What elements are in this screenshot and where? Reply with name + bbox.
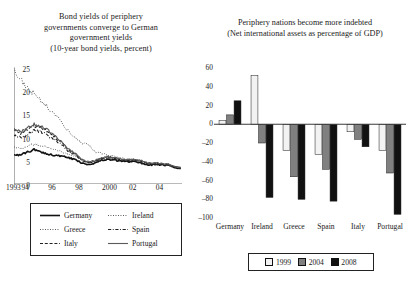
right-y-axis-tick-labels: 6040200–20–40–60–80–100 [193,68,213,218]
right-y-tick-60: 60 [206,64,213,72]
legend-label-greece: Greece [64,225,86,234]
right-legend-label-2008: 2008 [341,258,356,267]
right-x-label-italy: Italy [351,222,365,231]
legend-swatch-italy [39,239,61,248]
bar-greece-2008 [298,124,305,199]
legend-item-germany: Germany [39,211,107,220]
left-title-line-3: government yields [8,33,194,44]
legend-swatch-portugal [107,239,129,248]
bar-italy-2008 [362,124,369,147]
bar-italy-1999 [347,124,354,132]
bar-ireland-1999 [251,76,258,125]
right-legend-label-1999: 1999 [276,258,291,267]
legend-item-spain: Spain [107,225,175,234]
right-y-tick--80: –80 [202,195,213,203]
legend-label-ireland: Ireland [132,211,154,220]
bar-spain-2008 [330,124,337,201]
right-y-tick--60: –60 [202,177,213,185]
right-x-label-germany: Germany [216,222,244,231]
legend-swatch-spain [107,225,129,234]
right-chart-plot-area [214,68,406,218]
left-chart-legend: GermanyIrelandGreeceSpainItalyPortugal [30,203,182,256]
right-y-tick--40: –40 [202,158,213,166]
right-x-label-portugal: Portugal [377,222,403,231]
legend-item-portugal: Portugal [107,239,175,248]
right-chart-svg [214,68,406,218]
bar-greece-2004 [291,124,298,177]
legend-item-greece: Greece [39,225,107,234]
right-legend-swatch-2008 [331,258,339,266]
right-legend-swatch-1999 [265,258,273,266]
figure-container: Bond yields of periphery governments con… [0,0,414,288]
bar-ireland-2008 [266,124,273,197]
right-title-line-1: Periphery nations become more indebted [196,18,414,29]
right-y-tick-0: 0 [209,120,213,128]
right-y-tick-20: 20 [206,102,213,110]
bar-germany-2004 [227,115,234,124]
right-legend-swatch-2004 [298,258,306,266]
left-chart-panel: Bond yields of periphery governments con… [0,0,200,288]
right-chart-legend: 199920042008 [248,253,374,271]
legend-swatch-germany [39,211,61,220]
right-title-subtitle: (Net international assets as percentage … [196,29,414,40]
bar-spain-1999 [315,124,322,154]
bar-germany-2008 [234,101,241,124]
left-title-line-1: Bond yields of periphery [8,12,194,23]
legend-swatch-ireland [107,211,129,220]
left-x-tick-2000: 2000 [102,183,117,192]
bar-portugal-2004 [387,124,394,173]
left-chart-plot-area [14,66,186,184]
right-chart-panel: Periphery nations become more indebted (… [196,0,414,288]
right-x-label-greece: Greece [283,222,305,231]
right-legend-item-2004: 2004 [298,258,324,267]
legend-swatch-greece [39,225,61,234]
right-x-label-spain: Spain [317,222,334,231]
legend-label-italy: Italy [64,239,78,248]
bar-italy-2004 [355,124,362,139]
bar-greece-1999 [283,124,290,150]
right-legend-label-2004: 2004 [309,258,324,267]
left-x-tick-98: 98 [75,183,82,192]
legend-label-germany: Germany [64,211,92,220]
bar-portugal-1999 [379,124,386,150]
left-chart-title: Bond yields of periphery governments con… [8,12,194,54]
legend-label-spain: Spain [132,225,149,234]
bar-germany-1999 [219,121,226,125]
line-series-greece [14,67,181,168]
right-x-label-ireland: Ireland [251,222,273,231]
legend-item-italy: Italy [39,239,107,248]
right-legend-item-1999: 1999 [265,258,291,267]
right-y-tick--20: –20 [202,139,213,147]
legend-item-ireland: Ireland [107,211,175,220]
right-chart-title: Periphery nations become more indebted (… [196,18,414,39]
right-y-tick-40: 40 [206,83,213,91]
right-x-axis-category-labels: GermanyIrelandGreeceSpainItalyPortugal [214,222,410,234]
legend-label-portugal: Portugal [132,239,158,248]
left-title-line-2: governments converge to German [8,23,194,34]
left-x-tick-1993: 1993 [6,183,21,192]
left-x-tick-02: 02 [129,183,136,192]
left-title-subtitle: (10-year bond yields, percent) [8,44,194,55]
left-x-tick-96: 96 [48,183,55,192]
left-chart-svg [14,66,186,184]
bar-ireland-2004 [259,124,266,143]
left-x-tick-04: 04 [156,183,163,192]
left-x-axis-tick-labels: 199394969820000204 [14,183,190,195]
left-x-tick-94: 94 [21,183,28,192]
right-legend-item-2008: 2008 [331,258,357,267]
right-y-tick--100: –100 [198,214,213,222]
bar-portugal-2008 [394,124,401,214]
bar-spain-2004 [323,124,330,169]
